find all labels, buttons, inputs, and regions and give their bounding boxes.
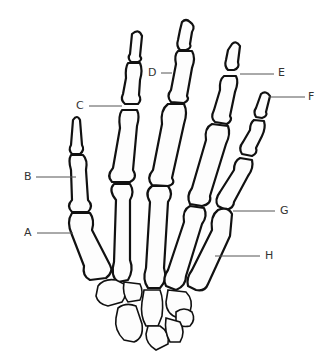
little-distal-phalanx	[255, 92, 271, 118]
middle-middle-phalanx	[169, 51, 195, 103]
label-C: C	[76, 100, 84, 111]
index-distal-phalanx	[129, 31, 142, 62]
scaphoid	[116, 304, 143, 342]
middle-distal-phalanx	[177, 20, 193, 50]
hand-skeleton-diagram: A B C D E F G H	[0, 0, 331, 363]
thumb-proximal-phalanx	[69, 155, 91, 212]
index-proximal-phalanx	[109, 110, 138, 182]
label-B: B	[24, 171, 32, 182]
capitate	[142, 290, 163, 326]
middle-proximal-phalanx	[149, 104, 186, 186]
label-D: D	[148, 67, 156, 78]
little-middle-phalanx	[240, 120, 264, 156]
ring-middle-phalanx	[212, 76, 237, 124]
ring-distal-phalanx	[225, 42, 240, 70]
lunate	[146, 326, 168, 350]
little-proximal-phalanx	[216, 158, 252, 210]
label-A: A	[24, 227, 32, 238]
thumb-distal-phalanx	[70, 117, 83, 154]
index-middle-phalanx	[122, 63, 142, 104]
triquetrum	[166, 318, 184, 342]
label-F: F	[308, 91, 314, 102]
index-metacarpal	[111, 184, 132, 282]
hand-bones-illustration	[0, 0, 331, 363]
label-E: E	[278, 67, 285, 78]
label-G: G	[280, 205, 289, 216]
thumb-metacarpal	[69, 213, 111, 280]
label-H: H	[265, 250, 273, 261]
trapezium	[96, 280, 126, 306]
trapezoid	[124, 282, 143, 302]
